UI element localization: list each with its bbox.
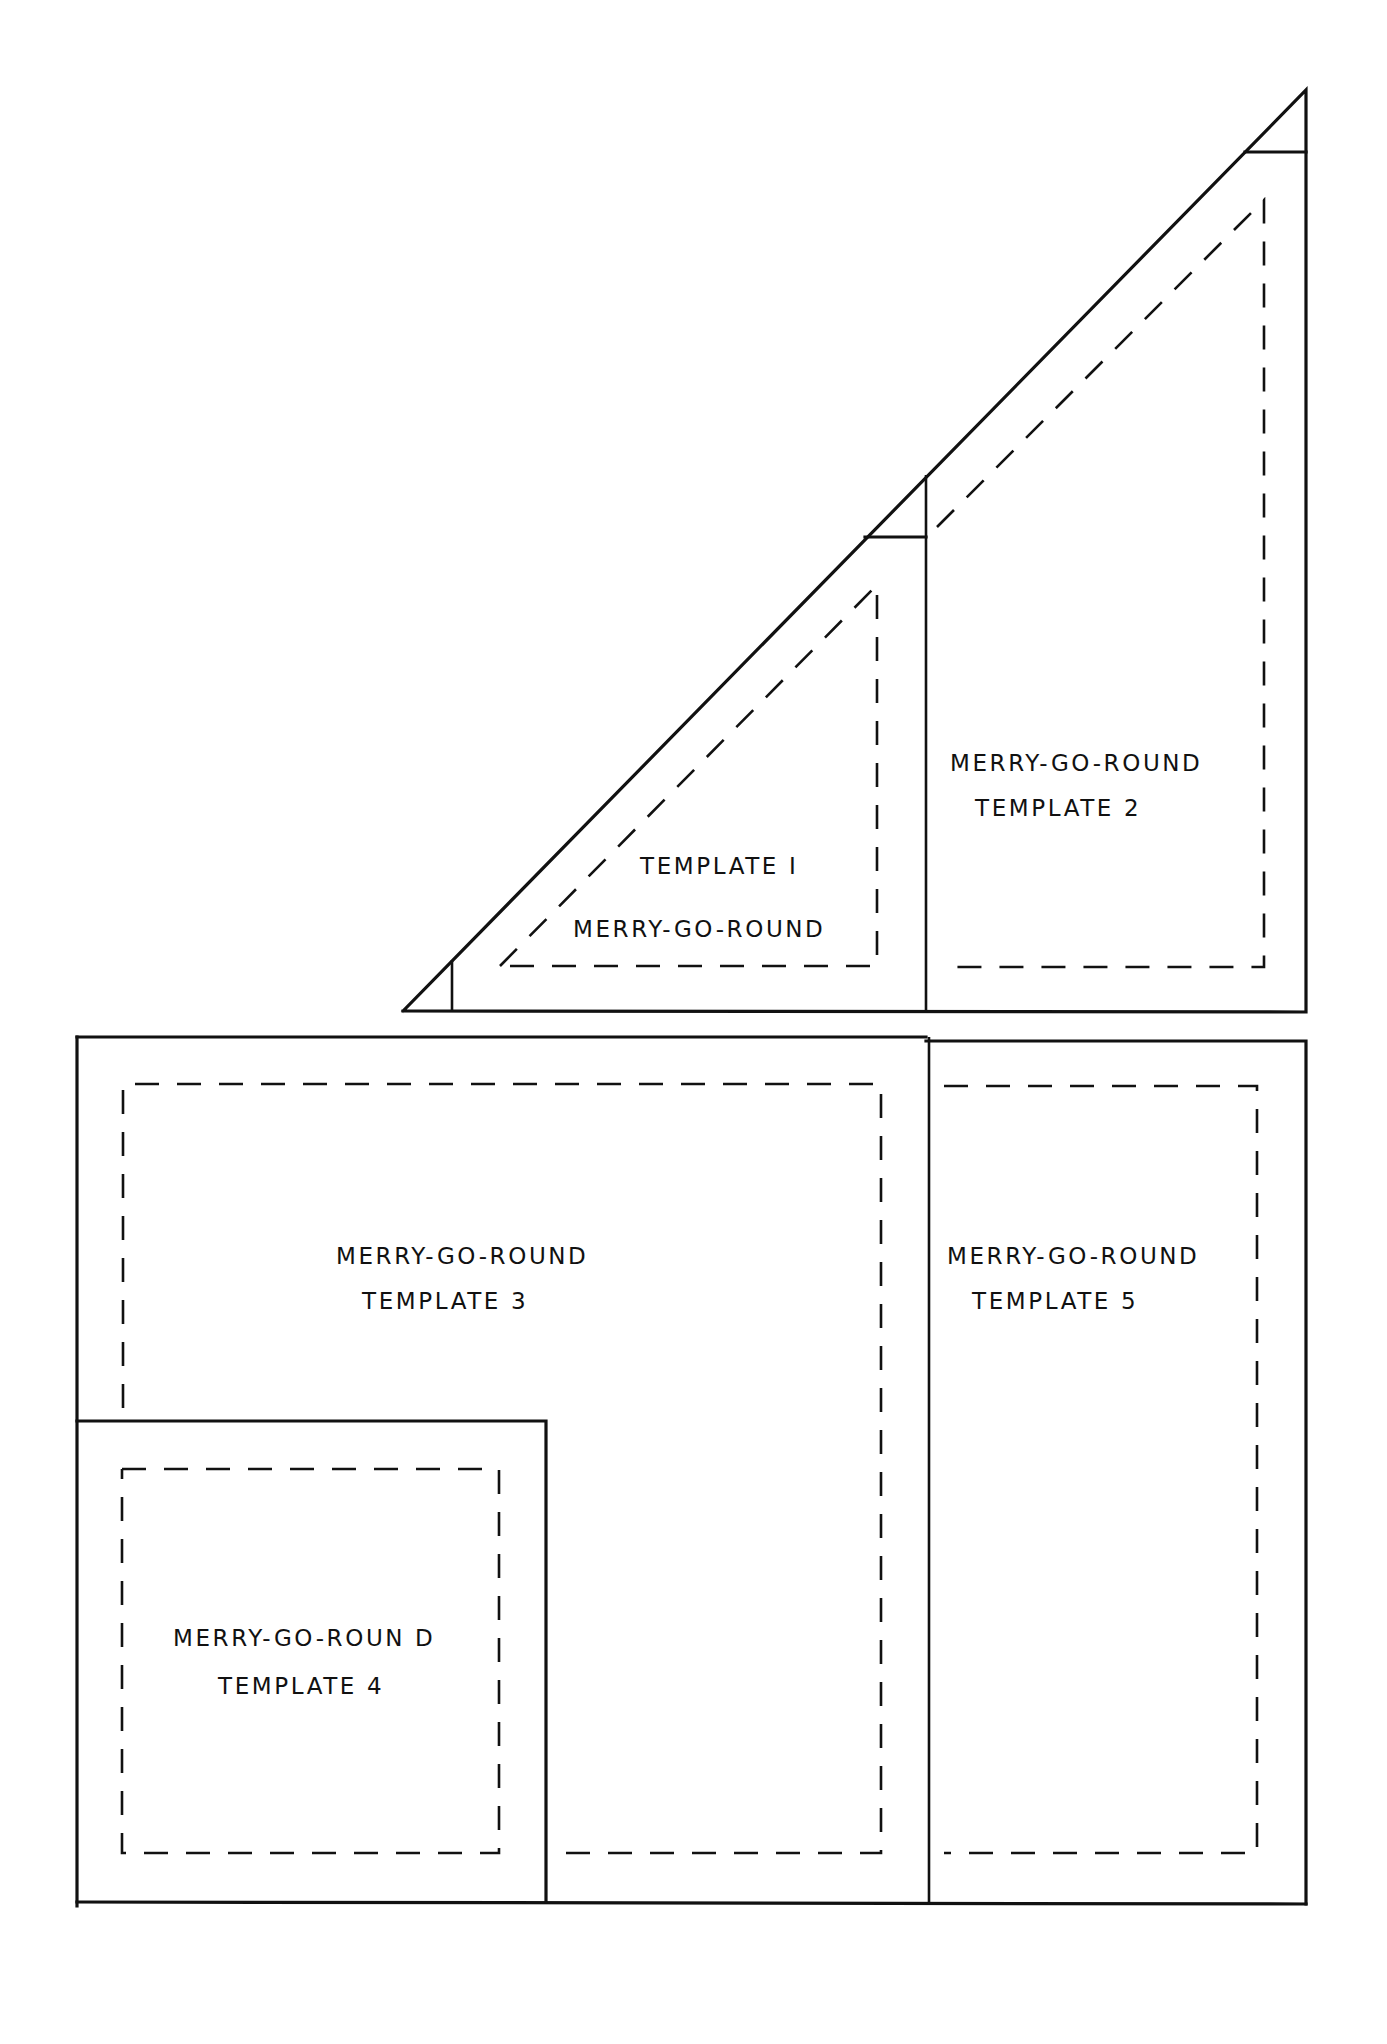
template-4-label-line2: TEMPLATE 4 bbox=[218, 1673, 384, 1699]
triangle-outline bbox=[403, 90, 1306, 1012]
template-1-label-line1: TEMPLATE I bbox=[640, 853, 798, 879]
template-5-outline bbox=[926, 1041, 1306, 1904]
template-1-label-line2: MERRY-GO-ROUND bbox=[573, 916, 825, 942]
upper-triangle-group bbox=[403, 90, 1306, 1012]
template-4-outline bbox=[77, 1421, 546, 1902]
template-3-seam bbox=[123, 1084, 881, 1853]
template-5-label-line2: TEMPLATE 5 bbox=[972, 1288, 1138, 1314]
template-5-label-line1: MERRY-GO-ROUND bbox=[947, 1243, 1199, 1269]
template-4-label-line1: MERRY-GO-ROUN D bbox=[173, 1625, 435, 1651]
template-2-label-line1: MERRY-GO-ROUND bbox=[950, 750, 1202, 776]
template-diagram bbox=[0, 0, 1387, 2044]
template-4-seam bbox=[122, 1469, 499, 1853]
template-3-label-line1: MERRY-GO-ROUND bbox=[336, 1243, 588, 1269]
lower-rectangle-group bbox=[77, 1037, 1306, 1906]
bottom-edge bbox=[77, 1902, 1306, 1904]
template-2-label-line2: TEMPLATE 2 bbox=[975, 795, 1141, 821]
template-5-seam bbox=[944, 1086, 1257, 1853]
template-1-seam bbox=[500, 585, 877, 966]
template-2-seam bbox=[937, 200, 1264, 967]
template-3-label-line2: TEMPLATE 3 bbox=[362, 1288, 528, 1314]
